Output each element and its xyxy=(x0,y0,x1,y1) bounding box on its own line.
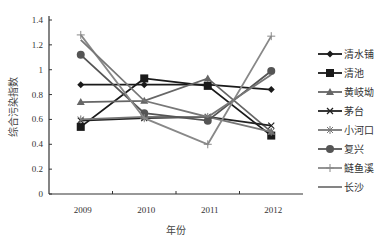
legend-item: 长沙 xyxy=(318,177,385,196)
legend: 清水铺清池黄岐坳茅台小河口复兴鲢鱼溪长沙 xyxy=(318,44,385,196)
legend-label: 长沙 xyxy=(344,179,364,194)
legend-label: 鲢鱼溪 xyxy=(344,160,374,175)
y-tick-label: 0.8 xyxy=(32,90,44,100)
axes: 00.20.40.60.811.21.42009201020112012 xyxy=(32,15,303,215)
legend-item: 清水铺 xyxy=(318,44,385,63)
legend-item: 复兴 xyxy=(318,139,385,158)
legend-swatch-icon xyxy=(318,125,342,135)
legend-item: 清池 xyxy=(318,63,385,82)
legend-item: 茅台 xyxy=(318,101,385,120)
x-tick-label: 2009 xyxy=(74,205,93,215)
y-tick-label: 1 xyxy=(39,65,44,75)
legend-label: 黄岐坳 xyxy=(344,84,374,99)
legend-label: 茅台 xyxy=(344,103,364,118)
legend-swatch-icon xyxy=(318,49,342,59)
y-tick-label: 0.6 xyxy=(32,114,44,124)
y-axis-title: 综合污染指数 xyxy=(7,77,19,137)
y-tick-label: 1.4 xyxy=(32,15,44,25)
legend-swatch-icon xyxy=(318,182,342,192)
legend-label: 清水铺 xyxy=(344,46,374,61)
y-tick-label: 0 xyxy=(39,189,44,199)
x-tick-label: 2011 xyxy=(201,205,219,215)
legend-item: 鲢鱼溪 xyxy=(318,158,385,177)
x-tick-label: 2012 xyxy=(264,205,282,215)
series-lines xyxy=(77,31,276,148)
legend-label: 小河口 xyxy=(344,122,374,137)
x-axis-title: 年份 xyxy=(166,224,186,236)
legend-swatch-icon xyxy=(318,87,342,97)
legend-label: 清池 xyxy=(344,65,364,80)
legend-swatch-icon xyxy=(318,144,342,154)
legend-label: 复兴 xyxy=(344,141,364,156)
y-tick-label: 1.2 xyxy=(32,40,43,50)
legend-item: 黄岐坳 xyxy=(318,82,385,101)
x-tick-label: 2010 xyxy=(137,205,156,215)
series-line xyxy=(81,117,272,132)
y-tick-label: 0.4 xyxy=(32,139,44,149)
legend-swatch-icon xyxy=(318,163,342,173)
legend-swatch-icon xyxy=(318,106,342,116)
y-tick-label: 0.2 xyxy=(32,164,43,174)
legend-swatch-icon xyxy=(318,68,342,78)
legend-item: 小河口 xyxy=(318,120,385,139)
